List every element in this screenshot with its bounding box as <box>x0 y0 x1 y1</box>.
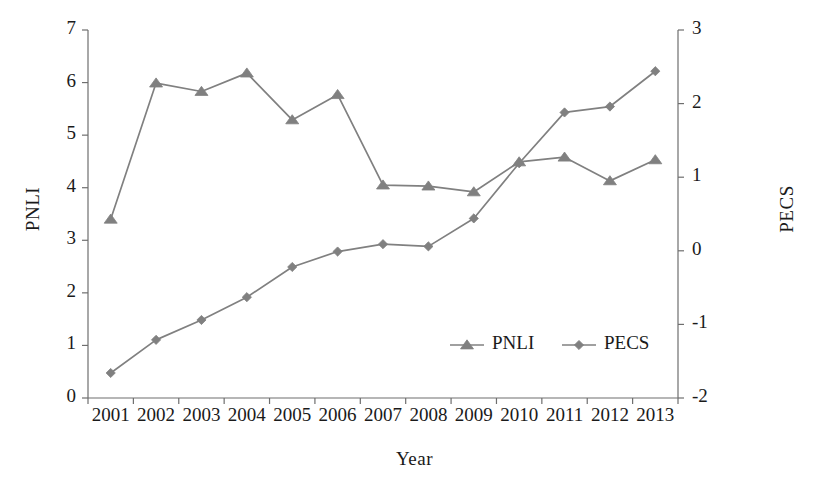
data-point-pecs <box>424 242 433 251</box>
data-point-pnli <box>331 89 344 98</box>
y-axis-right-tick-label: 0 <box>692 238 732 260</box>
y-axis-left-tick-label: 1 <box>36 332 76 354</box>
y-axis-right-tick-label: -1 <box>692 311 732 333</box>
data-point-pnli <box>603 176 616 185</box>
y-axis-right-tick-label: 1 <box>692 164 732 186</box>
y-axis-left-tick-label: 6 <box>36 70 76 92</box>
data-point-pnli <box>649 155 662 164</box>
legend-label-pnli: PNLI <box>492 332 534 354</box>
data-point-pecs <box>242 293 251 302</box>
data-point-pecs <box>333 247 342 256</box>
data-point-pnli <box>150 78 163 87</box>
y-axis-left-tick-label: 5 <box>36 122 76 144</box>
y-axis-right-tick-label: 2 <box>692 91 732 113</box>
y-axis-right-tick-label: 3 <box>692 17 732 39</box>
data-point-pecs <box>288 262 297 271</box>
legend-label-pecs: PECS <box>604 332 649 354</box>
y-axis-left-tick-label: 2 <box>36 280 76 302</box>
data-point-pnli <box>558 152 571 161</box>
legend-marker-pecs <box>574 340 583 349</box>
data-point-pnli <box>104 214 117 223</box>
data-point-pecs <box>197 315 206 324</box>
data-point-pnli <box>240 68 253 77</box>
x-axis-tick-label: 2013 <box>627 404 683 426</box>
series-line-pecs <box>111 71 656 373</box>
y-axis-left-tick-label: 3 <box>36 227 76 249</box>
y-axis-left-tick-label: 4 <box>36 175 76 197</box>
data-point-pecs <box>378 240 387 249</box>
y-axis-right-tick-label: -2 <box>692 385 732 407</box>
series-line-pnli <box>111 73 656 219</box>
y-axis-left-tick-label: 0 <box>36 385 76 407</box>
chart-figure: PNLI PECS Year 01234567-2-10123200120022… <box>0 0 829 494</box>
y-axis-left-tick-label: 7 <box>36 17 76 39</box>
